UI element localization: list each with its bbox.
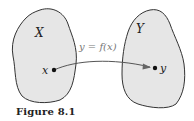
- set-x-label: X: [34, 26, 44, 40]
- mapping-diagram: X Y x y y = f(x): [0, 0, 194, 121]
- point-y-label: y: [159, 62, 167, 75]
- set-y-region: [122, 10, 185, 108]
- point-x-label: x: [42, 64, 49, 77]
- point-x-dot: [52, 68, 56, 72]
- figure-caption: Figure 8.1: [16, 106, 76, 117]
- point-y-dot: [153, 66, 157, 70]
- set-y-label: Y: [136, 22, 145, 36]
- set-x-region: [12, 9, 76, 103]
- mapping-label: y = f(x): [78, 41, 117, 52]
